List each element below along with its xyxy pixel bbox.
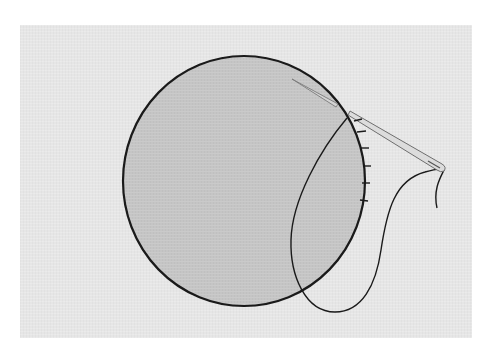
fabric-circle (123, 56, 365, 306)
illustration-stage: Hand stitching the edge of a circular fa… (0, 0, 484, 343)
thread-tail (436, 170, 444, 208)
sewing-illustration (0, 0, 484, 343)
